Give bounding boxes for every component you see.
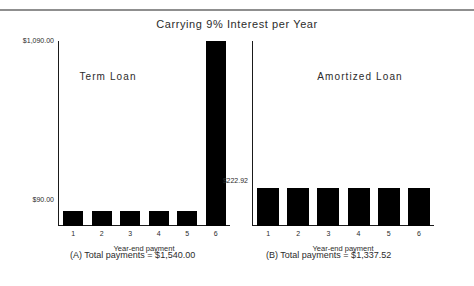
bar (287, 188, 309, 226)
bar-slot (59, 41, 87, 226)
bar-slot (202, 41, 230, 226)
x-tick-label: 2 (88, 230, 116, 237)
bar-slot (253, 41, 283, 226)
figure-title: Carrying 9% Interest per Year (0, 18, 474, 30)
bars-area-term-loan (59, 41, 230, 226)
x-tick-label: 1 (253, 230, 283, 237)
bar (120, 211, 140, 226)
x-tick-label: 4 (145, 230, 173, 237)
x-tick-label: 4 (344, 230, 374, 237)
bar-slot (88, 41, 116, 226)
chart-panel-term-loan: $1,090.00 $90.00 Term Loan 1 2 3 4 5 6 Y… (58, 41, 230, 241)
bar (378, 188, 400, 226)
x-tick-labels-amortized-loan: 1 2 3 4 5 6 (253, 230, 434, 237)
x-tick-label: 1 (59, 230, 87, 237)
bar (257, 188, 279, 226)
bar (348, 188, 370, 226)
bar-slot (145, 41, 173, 226)
x-tick-label: 6 (202, 230, 230, 237)
bar-slot (344, 41, 374, 226)
bar (408, 188, 430, 226)
bar-slot (313, 41, 343, 226)
bars-area-amortized-loan (253, 41, 434, 226)
bar (63, 211, 83, 226)
bar-slot (283, 41, 313, 226)
x-tick-label: 3 (313, 230, 343, 237)
top-divider-rule (0, 9, 474, 11)
bar (177, 211, 197, 226)
x-tick-label: 3 (116, 230, 144, 237)
bar (149, 211, 169, 226)
chart-panel-amortized-loan: $222.92 Amortized Loan 1 2 3 4 5 6 Year-… (252, 41, 434, 241)
caption-amortized-loan-total: (B) Total payments = $1,337.52 (266, 250, 391, 260)
x-tick-labels-term-loan: 1 2 3 4 5 6 (59, 230, 230, 237)
y-tick-label-left-upper: $1,090.00 (23, 37, 54, 45)
bar-slot (374, 41, 404, 226)
bar-slot (116, 41, 144, 226)
bar-slot (404, 41, 434, 226)
bar (92, 211, 112, 226)
x-tick-label: 2 (283, 230, 313, 237)
bar (317, 188, 339, 226)
figure-container: Carrying 9% Interest per Year $1,090.00 … (0, 0, 474, 286)
x-tick-label: 5 (374, 230, 404, 237)
x-tick-label: 6 (404, 230, 434, 237)
y-tick-label-left-lower: $90.00 (33, 196, 54, 204)
bar (206, 41, 226, 226)
y-tick-label-right: $222.92 (223, 177, 248, 185)
caption-term-loan-total: (A) Total payments = $1,540.00 (70, 250, 195, 260)
bar-slot (173, 41, 201, 226)
x-tick-label: 5 (173, 230, 201, 237)
